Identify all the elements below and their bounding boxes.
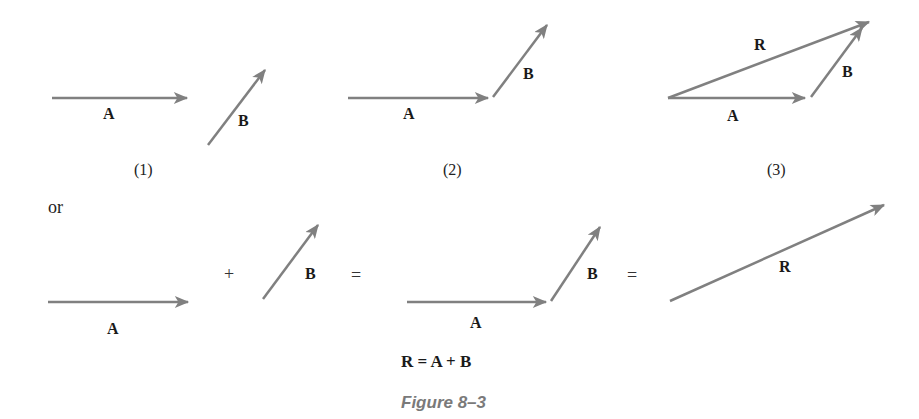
vector-b-eq: [263, 225, 318, 299]
label-a-panel-2: A: [403, 106, 415, 122]
panel-2-label: (2): [443, 162, 462, 178]
plus-sign: +: [224, 265, 234, 283]
label-a-panel-1: A: [103, 106, 115, 122]
equals-sign-1: =: [351, 266, 361, 284]
label-a-sum: A: [470, 315, 482, 331]
panel-1-label: (1): [134, 162, 153, 178]
label-b-panel-2: B: [523, 66, 534, 82]
label-a-panel-3: A: [727, 108, 739, 124]
label-b-sum: B: [587, 266, 598, 282]
vector-b-sum: [551, 227, 600, 301]
vector-b-panel-3: [811, 28, 862, 97]
panel-3-label: (3): [767, 162, 786, 178]
vector-r-result: [670, 205, 884, 301]
label-b-panel-1: B: [238, 113, 249, 129]
label-b-eq: B: [305, 266, 316, 282]
label-r-panel-3: R: [754, 37, 766, 53]
label-r-result: R: [779, 259, 791, 275]
figure-caption: Figure 8–3: [401, 394, 486, 411]
equation: R = A + B: [401, 353, 471, 370]
label-b-panel-3: B: [842, 64, 853, 80]
vector-b-panel-1: [208, 70, 265, 145]
equals-sign-2: =: [627, 266, 637, 284]
connector-or: or: [48, 198, 63, 216]
label-a-eq: A: [107, 321, 119, 337]
vector-b-panel-2: [493, 25, 547, 97]
